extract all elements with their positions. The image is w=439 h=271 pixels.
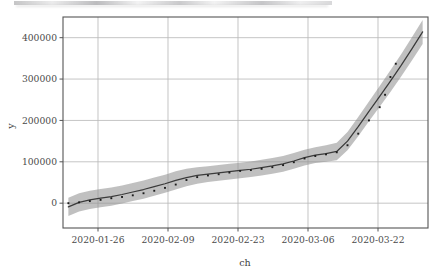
data-point	[100, 199, 102, 201]
data-point	[67, 202, 69, 204]
x-tick-label: 2020-03-22	[352, 234, 405, 245]
figure-canvas: 0100000200000300000400000 2020-01-262020…	[0, 0, 439, 271]
data-point	[196, 176, 198, 178]
x-tick-label: 2020-01-26	[72, 234, 125, 245]
data-point	[186, 179, 188, 181]
x-tick-label: 2020-03-06	[282, 234, 335, 245]
data-point	[261, 168, 263, 170]
y-axis-tick-labels: 0100000200000300000400000	[22, 32, 57, 208]
data-point	[304, 158, 306, 160]
data-point	[78, 201, 80, 203]
y-tick-label: 400000	[22, 32, 57, 43]
y-tick-label: 0	[51, 197, 57, 208]
data-point	[384, 94, 386, 96]
data-point	[293, 161, 295, 163]
y-tick-label: 100000	[22, 156, 57, 167]
data-point	[228, 172, 230, 174]
data-point	[282, 164, 284, 166]
data-point	[325, 153, 327, 155]
data-point	[395, 63, 397, 65]
data-point	[89, 200, 91, 202]
data-point	[271, 166, 273, 168]
x-tick-label: 2020-02-23	[212, 234, 265, 245]
data-point	[389, 76, 391, 78]
data-point	[207, 175, 209, 177]
data-point	[347, 144, 349, 146]
data-point	[379, 106, 381, 108]
chart-svg: 0100000200000300000400000 2020-01-262020…	[0, 0, 439, 271]
y-axis-title: y	[5, 123, 16, 130]
data-point	[250, 169, 252, 171]
y-tick-label: 200000	[22, 115, 57, 126]
data-point	[143, 192, 145, 194]
data-point	[218, 173, 220, 175]
x-tick-label: 2020-02-09	[142, 234, 195, 245]
data-point	[314, 155, 316, 157]
x-axis-tick-labels: 2020-01-262020-02-092020-02-232020-03-06…	[72, 234, 405, 245]
data-point	[164, 187, 166, 189]
data-point	[357, 133, 359, 135]
data-point	[121, 196, 123, 198]
data-point	[239, 170, 241, 172]
x-axis-title: ch	[239, 257, 251, 268]
data-point	[368, 119, 370, 121]
data-point	[153, 190, 155, 192]
data-point	[336, 151, 338, 153]
data-point	[110, 197, 112, 199]
y-tick-label: 300000	[22, 73, 57, 84]
data-point	[175, 184, 177, 186]
data-point	[132, 194, 134, 196]
